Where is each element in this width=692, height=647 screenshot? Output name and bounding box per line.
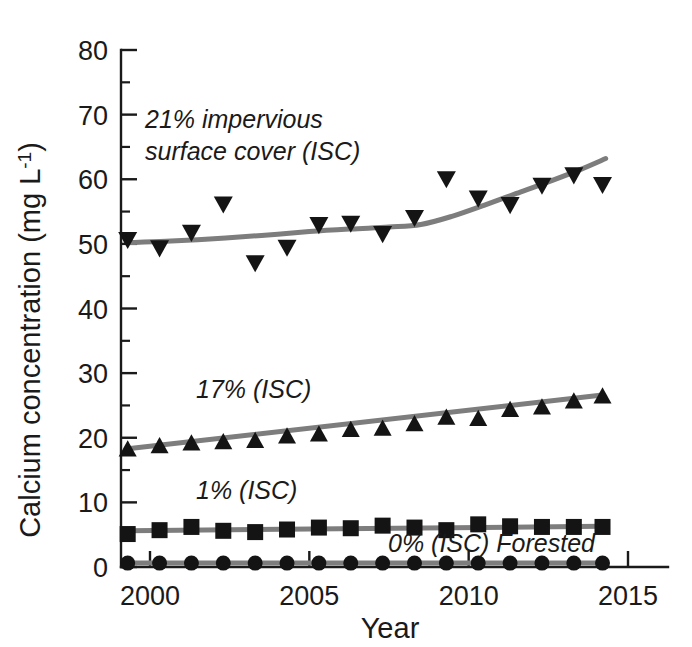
chart-figure: Calcium concentration (mg L-1) Year 0102… — [0, 0, 692, 647]
data-point — [247, 524, 263, 540]
calcium-concentration-scatter-chart: Calcium concentration (mg L-1) Year 0102… — [0, 0, 692, 647]
annotation-isc21-line1: 21% impervious — [144, 105, 323, 133]
data-point — [215, 523, 231, 539]
annotation-isc17: 17% (ISC) — [196, 375, 311, 403]
data-point — [407, 556, 422, 571]
trend-line-series-0 — [128, 159, 606, 243]
data-point — [278, 240, 297, 257]
y-axis-title-superscript: -1 — [14, 152, 35, 169]
y-axis-title-text: Calcium concentration (mg L — [14, 169, 46, 538]
data-point — [534, 556, 549, 571]
data-point — [248, 556, 263, 571]
data-point — [595, 556, 610, 571]
data-point — [152, 556, 167, 571]
data-point — [120, 556, 135, 571]
data-point — [246, 255, 265, 272]
y-axis-tick-labels: 01020304050607080 — [78, 36, 108, 583]
annotation-isc0-forested: 0% (ISC) Forested — [388, 529, 596, 557]
x-tick-label-2005: 2005 — [279, 581, 339, 611]
y-tick-label-60: 60 — [78, 165, 108, 195]
data-point — [595, 519, 611, 535]
y-axis-ticks — [121, 50, 137, 567]
data-point — [279, 522, 295, 538]
y-tick-label-10: 10 — [78, 488, 108, 518]
trend-line-series-1 — [128, 395, 603, 449]
data-point — [437, 171, 456, 188]
x-tick-label-2010: 2010 — [439, 581, 499, 611]
data-point — [120, 526, 136, 542]
data-point — [566, 556, 581, 571]
data-point — [280, 556, 295, 571]
data-point — [311, 520, 327, 536]
x-tick-label-2000: 2000 — [120, 581, 180, 611]
data-point — [373, 226, 392, 243]
y-tick-label-0: 0 — [93, 553, 108, 583]
data-point — [471, 556, 486, 571]
x-tick-label-2015: 2015 — [598, 581, 658, 611]
data-point — [343, 556, 358, 571]
y-tick-label-40: 40 — [78, 295, 108, 325]
annotation-isc1: 1% (ISC) — [196, 476, 297, 504]
data-point — [375, 556, 390, 571]
y-tick-label-80: 80 — [78, 36, 108, 66]
y-tick-label-70: 70 — [78, 101, 108, 131]
svg-text:Calcium concentration (mg L-1): Calcium concentration (mg L-1) — [14, 142, 46, 538]
series-markers-0 — [118, 167, 612, 272]
y-tick-label-50: 50 — [78, 230, 108, 260]
data-point — [501, 197, 520, 214]
data-point — [183, 519, 199, 535]
x-axis-title: Year — [361, 612, 420, 644]
annotation-isc21-line2: surface cover (ISC) — [145, 137, 360, 165]
x-axis-tick-labels: 2000200520102015 — [120, 581, 658, 611]
data-point — [311, 556, 326, 571]
data-point — [184, 556, 199, 571]
y-tick-label-30: 30 — [78, 359, 108, 389]
y-axis-title: Calcium concentration (mg L-1) — [14, 142, 46, 538]
data-point — [214, 196, 233, 213]
data-point — [593, 177, 612, 194]
data-point — [216, 556, 231, 571]
data-point — [152, 522, 168, 538]
data-point — [343, 520, 359, 536]
y-axis-title-close: ) — [14, 142, 46, 152]
data-point — [503, 556, 518, 571]
data-point — [439, 556, 454, 571]
y-tick-label-20: 20 — [78, 424, 108, 454]
data-point — [150, 240, 169, 257]
